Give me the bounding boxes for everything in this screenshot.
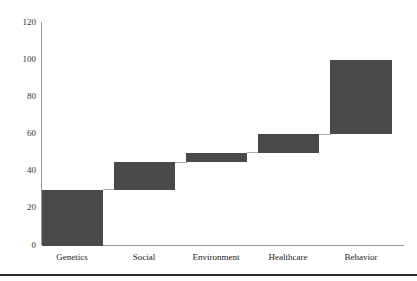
y-tick-label-120: 120 (23, 17, 37, 27)
y-tick-label-40: 40 (27, 165, 37, 175)
x-label-healthcare: Healthcare (269, 252, 308, 262)
chart-canvas: 120 100 80 60 40 20 0 Genetics Social En… (0, 0, 417, 281)
bar-genetics[interactable] (42, 190, 103, 246)
x-label-environment: Environment (193, 252, 240, 262)
waterfall-chart: 120 100 80 60 40 20 0 Genetics Social En… (0, 0, 417, 281)
bar-environment[interactable] (186, 153, 247, 162)
bar-healthcare[interactable] (258, 134, 319, 153)
footer-divider (0, 274, 417, 276)
y-tick-label-0: 0 (32, 240, 37, 250)
y-tick-label-60: 60 (27, 128, 37, 138)
bar-social[interactable] (114, 162, 175, 190)
bar-series (42, 60, 392, 246)
x-label-genetics: Genetics (56, 252, 88, 262)
y-tick-label-20: 20 (27, 202, 37, 212)
bar-behavior[interactable] (330, 60, 392, 134)
y-tick-label-80: 80 (27, 91, 37, 101)
y-tick-label-100: 100 (23, 54, 37, 64)
x-label-behavior: Behavior (345, 252, 378, 262)
x-label-social: Social (133, 252, 156, 262)
